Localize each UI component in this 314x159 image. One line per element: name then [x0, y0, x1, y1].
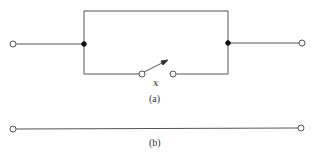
right-terminal — [299, 40, 305, 46]
lower-branch-right-wire — [176, 43, 228, 74]
caption-b: (b) — [149, 138, 161, 148]
left-terminal-b — [10, 126, 16, 132]
upper-branch-wire — [84, 11, 228, 44]
left-junction — [82, 42, 87, 47]
switch-arrow-head — [161, 60, 168, 65]
short-circuit-wire — [16, 128, 298, 129]
caption-a: (a) — [149, 94, 160, 104]
switch-contact-right — [170, 71, 176, 77]
left-terminal — [10, 41, 16, 47]
part-b-circuit — [10, 125, 304, 132]
right-junction — [226, 41, 231, 46]
part-a-circuit — [10, 11, 305, 77]
lower-branch-left-wire — [84, 44, 139, 74]
switch-label: x — [153, 78, 159, 88]
switch-contact-left — [139, 71, 145, 77]
right-terminal-b — [298, 125, 304, 131]
